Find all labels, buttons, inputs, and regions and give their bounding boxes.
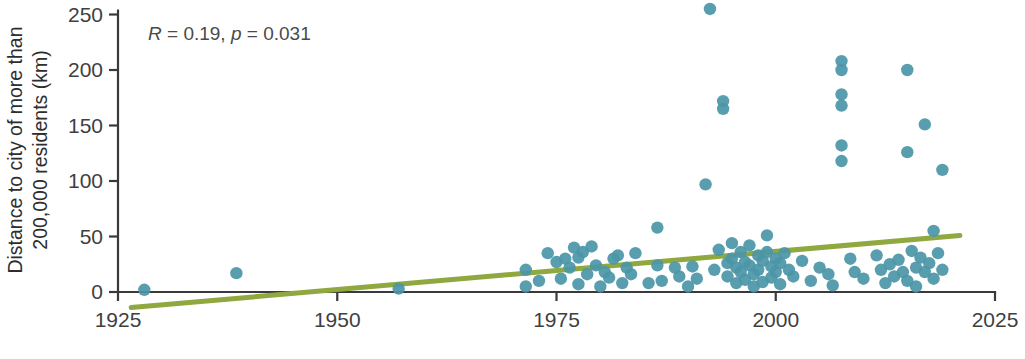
x-tick-label: 2000 [752,308,799,331]
scatter-plot-figure: 19251950197520002025050100150200250Dista… [0,0,1025,359]
y-tick-label: 250 [68,3,103,26]
data-point [787,270,799,282]
y-tick-label: 150 [68,114,103,137]
data-point [555,272,567,284]
data-point [761,229,773,241]
data-point [870,249,882,261]
data-point [910,280,922,292]
data-point [835,155,847,167]
y-axis-title-line2: 200,000 residents (km) [29,50,51,249]
data-point [691,272,703,284]
data-point [822,268,834,280]
data-point [901,146,913,158]
data-point [572,278,584,290]
data-point [542,247,554,259]
data-point [581,268,593,280]
data-point [936,164,948,176]
data-point [778,247,790,259]
data-point [835,64,847,76]
data-point [892,254,904,266]
data-point [563,261,575,273]
data-point [603,271,615,283]
data-point [805,275,817,287]
data-point [686,260,698,272]
data-point [919,118,931,130]
trend-line [131,235,960,307]
axis-lines [118,11,995,293]
data-point [520,280,532,292]
data-point [616,277,628,289]
data-point [844,253,856,265]
data-point [651,221,663,233]
data-point [642,277,654,289]
y-tick-label: 200 [68,58,103,81]
data-point [392,282,404,294]
data-point [699,178,711,190]
data-point [774,278,786,290]
data-point [835,88,847,100]
data-point [138,284,150,296]
data-point [585,240,597,252]
data-point [923,257,935,269]
data-point [717,103,729,115]
plot-canvas: 19251950197520002025050100150200250Dista… [0,0,1025,359]
y-tick-label: 100 [68,169,103,192]
data-point [927,225,939,237]
y-tick-label: 50 [80,225,103,248]
x-tick-label: 1950 [314,308,361,331]
data-point [533,275,545,287]
data-point [673,270,685,282]
data-point [936,264,948,276]
data-point [708,264,720,276]
data-point [713,244,725,256]
data-point [835,99,847,111]
data-point [230,267,242,279]
data-point [726,237,738,249]
data-point [796,255,808,267]
data-point [835,139,847,151]
correlation-annotation: R = 0.19, p = 0.031 [148,23,311,44]
data-point [743,239,755,251]
data-point [901,64,913,76]
data-point [625,268,637,280]
data-point [629,247,641,259]
y-tick-label: 0 [91,280,103,303]
data-point [520,264,532,276]
data-point [612,249,624,261]
data-point [594,280,606,292]
x-tick-label: 1975 [533,308,580,331]
y-axis-title-line1: Distance to city of more than [4,26,26,273]
data-point [704,3,716,15]
data-point [932,247,944,259]
x-tick-label: 1925 [95,308,142,331]
data-point [927,272,939,284]
data-point [857,272,869,284]
data-point [827,279,839,291]
data-point [651,259,663,271]
data-point [656,275,668,287]
x-tick-label: 2025 [972,308,1019,331]
